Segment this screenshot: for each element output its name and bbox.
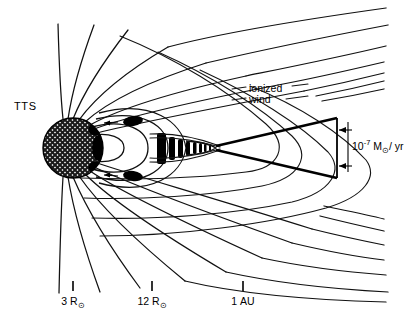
sun-symbol-icon: ⊙ xyxy=(382,146,389,155)
scale-unit-2: AU xyxy=(240,295,255,307)
scale-value-2: 1 xyxy=(231,295,237,307)
ionized-wind-cone xyxy=(216,118,337,178)
mass-loss-exponent: -7 xyxy=(364,138,371,147)
sun-symbol-icon: ⊙ xyxy=(78,301,85,310)
ionized-wind-label-line2: wind xyxy=(249,94,271,105)
diagram-svg xyxy=(0,0,416,325)
mass-loss-indicator xyxy=(339,122,352,172)
scale-label-0: 3 R⊙ xyxy=(61,296,84,310)
mass-loss-mantissa: 10 xyxy=(352,140,364,152)
scale-value-1: 12 xyxy=(137,295,149,307)
scale-label-1: 12 R⊙ xyxy=(137,296,166,310)
open-field-lines-lower-far xyxy=(185,206,388,302)
scale-value-0: 3 xyxy=(61,295,67,307)
scale-label-2: 1 AU xyxy=(231,296,254,307)
star-label: TTS xyxy=(14,101,37,113)
mass-loss-rate-label: 10-7 M⊙/ yr xyxy=(352,139,404,155)
figure-canvas: TTS ionized wind 10-7 M⊙/ yr 3 R⊙ 12 R⊙ … xyxy=(0,0,416,325)
mass-loss-unit-mass: M xyxy=(373,140,382,152)
open-field-lines-upper xyxy=(58,24,304,133)
mass-loss-unit-time: / yr xyxy=(389,140,404,152)
sun-symbol-icon: ⊙ xyxy=(160,301,167,310)
